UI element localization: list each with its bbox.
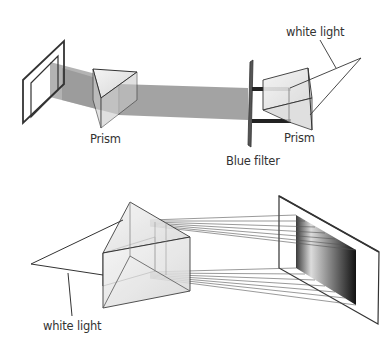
bottom-setup [31, 196, 379, 324]
prism-diagram [0, 0, 391, 344]
prism-left [93, 69, 137, 128]
label-blue-filter: Blue filter [226, 154, 280, 168]
label-white-light-bottom: white light [43, 319, 101, 333]
blue-filter [248, 60, 253, 147]
label-white-light-top: white light [286, 25, 344, 39]
prism-bottom [103, 202, 190, 308]
screen-frame [23, 41, 64, 123]
label-prism-left: Prism [90, 132, 121, 146]
label-prism-right: Prism [284, 131, 315, 145]
